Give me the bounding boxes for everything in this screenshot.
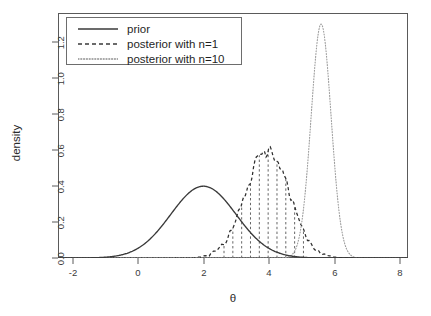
y-tick-label: 0.8 <box>56 108 66 121</box>
legend-entry-posterior-n10: posterior with n=10 <box>67 52 241 66</box>
x-axis-title: θ <box>230 293 236 305</box>
legend-entry-posterior-n1: posterior with n=1 <box>67 37 241 51</box>
y-tick-label: 1.0 <box>56 72 66 85</box>
y-tick-label: 1.2 <box>56 36 66 49</box>
legend: prior posterior with n=1 posterior with … <box>66 17 242 65</box>
legend-key-dashed-icon <box>78 43 118 45</box>
y-tick-label: 0.0 <box>56 252 66 265</box>
legend-key-dotted-icon <box>78 58 118 60</box>
legend-entry-prior: prior <box>67 22 241 36</box>
y-tick-label: 0.4 <box>56 180 66 193</box>
x-tick-label: 6 <box>332 268 337 278</box>
legend-label: prior <box>127 22 150 36</box>
y-axis-title: density <box>11 125 23 161</box>
x-axis-ticks <box>73 258 400 264</box>
y-tick-label: 0.2 <box>56 216 66 229</box>
legend-label: posterior with n=1 <box>127 37 218 51</box>
x-tick-label: -2 <box>69 268 77 278</box>
legend-key-solid-icon <box>78 28 118 30</box>
x-tick-label: 8 <box>397 268 402 278</box>
density-plot-figure: -2 0 2 4 6 8 0.0 0.2 0.4 0.6 0.8 1.0 1.2… <box>0 0 431 316</box>
y-tick-label: 0.6 <box>56 144 66 157</box>
posterior-n1-hatch <box>224 151 303 258</box>
x-tick-label: 4 <box>266 268 271 278</box>
x-tick-label: 2 <box>201 268 206 278</box>
legend-label: posterior with n=10 <box>127 52 225 66</box>
x-tick-label: 0 <box>135 268 140 278</box>
